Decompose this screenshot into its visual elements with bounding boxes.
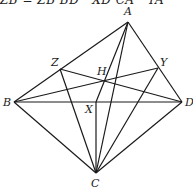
segment-BY — [14, 68, 158, 102]
segment-AX — [96, 22, 128, 102]
segments-group — [14, 22, 182, 173]
segment-AB — [14, 22, 128, 102]
label-B: B — [2, 96, 11, 109]
label-H: H — [96, 65, 107, 78]
label-Y: Y — [160, 56, 169, 69]
label-Z: Z — [50, 56, 59, 69]
label-D: D — [184, 96, 193, 109]
segment-YC — [96, 68, 158, 173]
label-A: A — [123, 5, 132, 18]
label-C: C — [91, 177, 100, 190]
geometry-diagram: A B C D Z Y H X — [0, 0, 193, 192]
label-X: X — [84, 103, 94, 116]
